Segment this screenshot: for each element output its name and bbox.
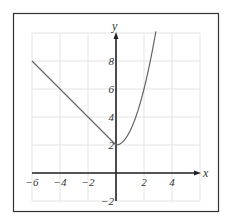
- x-tick-label: 4: [169, 176, 175, 188]
- x-axis-label: x: [202, 166, 209, 180]
- x-tick-label: 2: [141, 176, 147, 188]
- x-tick-label: −4: [54, 176, 67, 188]
- y-tick-label: 6: [109, 83, 115, 95]
- y-tick-label: 8: [109, 55, 115, 67]
- y-tick-label: −2: [101, 195, 114, 207]
- y-tick-label: 4: [109, 111, 115, 123]
- y-axis-label: y: [111, 19, 118, 33]
- x-tick-label: −6: [26, 176, 39, 188]
- x-tick-label: −2: [82, 176, 95, 188]
- y-tick-label: 2: [109, 139, 115, 151]
- chart: −6−4−224−22468 x y: [0, 0, 230, 223]
